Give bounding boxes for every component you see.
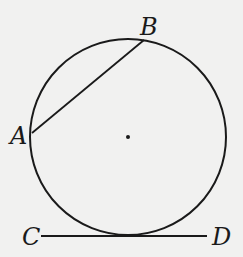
geometry-diagram: A B C D (0, 0, 243, 257)
label-a: A (8, 122, 27, 150)
chord-ab (32, 40, 144, 133)
label-c: C (22, 223, 40, 251)
label-d: D (211, 223, 231, 251)
label-b: B (139, 13, 158, 41)
center-point (126, 135, 130, 139)
